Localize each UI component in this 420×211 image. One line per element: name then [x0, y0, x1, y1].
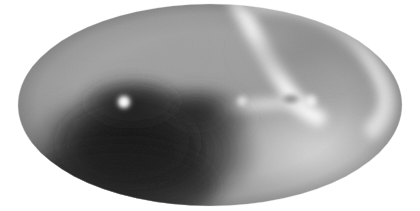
- all-sky-map-figure: [0, 0, 420, 211]
- all-sky-map-canvas: [0, 0, 420, 211]
